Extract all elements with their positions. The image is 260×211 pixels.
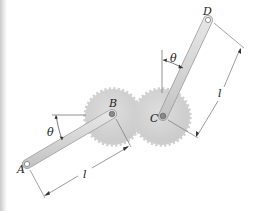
- label-b: B: [108, 97, 117, 110]
- label-d: D: [202, 5, 212, 18]
- mechanism-diagram: A B C D θ θ l l: [0, 0, 260, 211]
- label-length-left: l: [83, 168, 87, 181]
- pin-d-icon: [205, 17, 210, 22]
- label-theta-left: θ: [47, 126, 54, 139]
- pin-b-icon: [109, 111, 115, 117]
- pin-a-icon: [24, 161, 29, 166]
- theta-arc-left: [55, 115, 64, 140]
- label-length-right: l: [218, 87, 222, 100]
- label-c: C: [150, 112, 159, 125]
- label-a: A: [16, 163, 25, 176]
- label-theta-right: θ: [170, 52, 177, 65]
- pin-c-icon: [160, 113, 166, 119]
